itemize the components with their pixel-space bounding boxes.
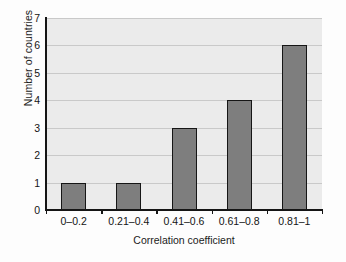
y-axis-tick-label: 2 <box>26 150 40 161</box>
bar <box>61 183 86 210</box>
x-axis-tick-mark <box>212 210 213 214</box>
y-axis-tick-label: 6 <box>26 40 40 51</box>
bar <box>116 183 141 210</box>
bar-series <box>46 18 322 210</box>
x-axis-title: Correlation coefficient <box>46 234 322 246</box>
x-axis-tick-label: 0.41–0.6 <box>164 216 205 227</box>
y-axis-tick-labels: 01234567 <box>26 18 40 210</box>
y-axis-tick-label: 1 <box>26 177 40 188</box>
x-axis-tick-label: 0–0.2 <box>60 216 86 227</box>
x-axis-tick-mark <box>267 210 268 214</box>
x-axis-tick-mark <box>322 210 323 214</box>
x-axis-tick-mark <box>156 210 157 214</box>
bar <box>172 128 197 210</box>
x-axis-tick-mark <box>101 210 102 214</box>
y-axis-tick-label: 3 <box>26 122 40 133</box>
x-axis-tick-label: 0.81–1 <box>278 216 310 227</box>
y-axis-tick-label: 5 <box>26 68 40 79</box>
x-axis-tick-label: 0.61–0.8 <box>219 216 260 227</box>
bar <box>227 100 252 210</box>
bar-chart-figure: Number of countries 01234567 0–0.20.21–0… <box>0 0 346 262</box>
bar <box>282 45 307 210</box>
x-axis-tick-mark <box>46 210 47 214</box>
y-axis-tick-label: 4 <box>26 95 40 106</box>
x-axis-tick-label: 0.21–0.4 <box>108 216 149 227</box>
y-axis-tick-label: 0 <box>26 205 40 216</box>
y-axis-tick-label: 7 <box>26 13 40 24</box>
